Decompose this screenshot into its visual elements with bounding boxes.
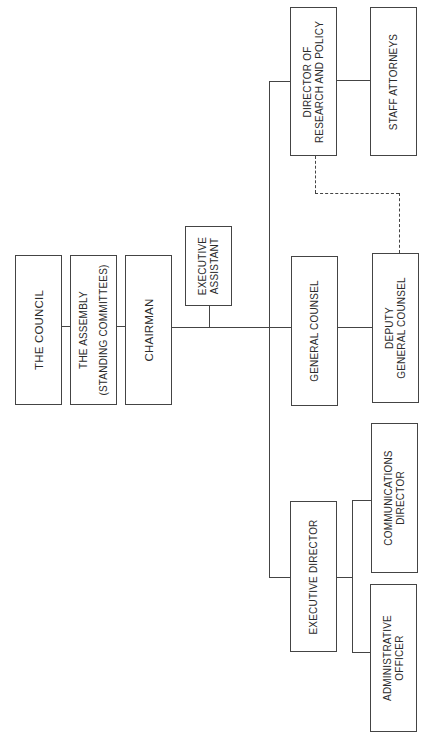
director-research-box: DIRECTOR OF RESEARCH AND POLICY [290,7,337,156]
staff-attorneys-label: STAFF ATTORNEYS [388,33,400,129]
deputy-general-counsel-label: DEPUTY GENERAL COUNSEL [384,277,408,379]
staff-attorneys-box: STAFF ATTORNEYS [370,7,417,156]
council-label: THE COUNCIL [33,290,45,370]
administrative-officer-label: ADMINISTRATIVE OFFICER [382,615,406,701]
connector-general-deputy [338,327,372,328]
administrative-officer-box: ADMINISTRATIVE OFFICER [370,584,417,732]
connector-executive-assistant-stem [209,306,210,327]
dashed-connector-director-down [315,156,316,193]
executive-assistant-box: EXECUTIVE ASSISTANT [185,226,232,306]
connector-main-bus [269,81,270,578]
dashed-connector-deputy-up [399,193,400,253]
executive-assistant-label: EXECUTIVE ASSISTANT [197,237,221,295]
council-box: THE COUNCIL [15,255,62,405]
chairman-box: CHAIRMAN [125,255,172,405]
connector-bus-director-research [269,81,291,82]
connector-executive-director-branch [337,577,352,578]
director-research-label: DIRECTOR OF RESEARCH AND POLICY [302,20,326,142]
assembly-box: THE ASSEMBLY (STANDING COMMITTEES) [70,255,117,405]
connector-chairman-bus [172,327,291,328]
general-counsel-box: GENERAL COUNSEL [291,256,338,406]
connector-executive-branch-vertical [352,500,353,653]
dashed-connector-horizontal [315,193,399,194]
executive-director-box: EXECUTIVE DIRECTOR [290,501,337,652]
connector-assembly-chairman [117,326,125,327]
deputy-general-counsel-box: DEPUTY GENERAL COUNSEL [372,253,419,403]
communications-director-box: COMMUNICATIONS DIRECTOR [371,423,418,573]
connector-bus-executive-director [269,577,291,578]
assembly-label: THE ASSEMBLY (STANDING COMMITTEES) [78,264,110,395]
connector-branch-communications [352,500,371,501]
general-counsel-label: GENERAL COUNSEL [309,280,321,382]
connector-branch-administrative [352,652,370,653]
connector-director-staff [337,80,370,81]
executive-director-label: EXECUTIVE DIRECTOR [308,519,320,634]
communications-director-label: COMMUNICATIONS DIRECTOR [383,450,407,545]
connector-council-assembly [62,326,70,327]
chairman-label: CHAIRMAN [143,299,155,362]
